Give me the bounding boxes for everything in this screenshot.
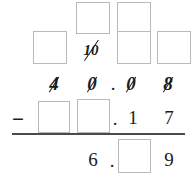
minuend-digit-thousands: 4	[42, 72, 66, 96]
answer-digit-units: 6	[82, 148, 104, 172]
subtrahend-box-1[interactable]	[38, 101, 70, 133]
subtrahend-digit-tenths: 1	[122, 106, 144, 130]
answer-digit-hundredths: 9	[158, 148, 180, 172]
crossed-out-ten: 10	[77, 40, 105, 60]
answer-box-tenths[interactable]	[118, 139, 151, 173]
subtraction-worksheet: 10 4 0 . 0 8 − . 1 7 6 . 9	[0, 0, 193, 175]
answer-decimal-point: .	[105, 149, 119, 173]
minuend-digit-tenths: 0	[119, 72, 143, 96]
minus-operator: −	[8, 108, 28, 130]
minuend-digit-hundredths: 8	[156, 72, 180, 96]
regroup-top-box-2[interactable]	[117, 2, 151, 34]
regroup-top-box-1[interactable]	[76, 2, 110, 34]
minuend-digit-ones: 0	[80, 72, 104, 96]
subtrahend-decimal-point: .	[108, 107, 122, 131]
answer-rule	[12, 133, 185, 135]
regroup-mid-box-left[interactable]	[33, 31, 67, 64]
subtrahend-box-2[interactable]	[77, 99, 110, 133]
minuend-decimal-point: .	[106, 72, 120, 96]
regroup-mid-box-right-2[interactable]	[157, 31, 191, 64]
regroup-mid-box-right-1[interactable]	[117, 31, 151, 64]
subtrahend-digit-hundredths: 7	[158, 106, 180, 130]
